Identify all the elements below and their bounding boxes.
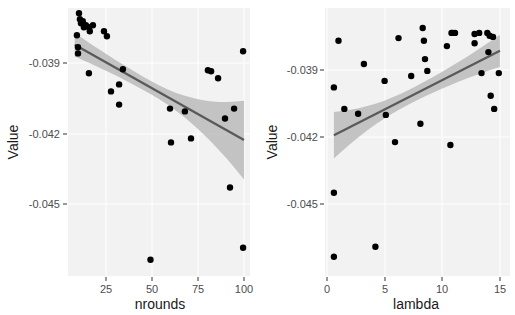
y-tick-label: -0.042 [287,131,318,143]
data-point [331,190,337,196]
data-point [444,43,450,49]
y-tick-label: -0.042 [29,128,60,140]
x-tick-label: 5 [382,283,388,295]
y-tick-label: -0.039 [287,64,318,76]
y-tick-label: -0.039 [29,57,60,69]
y-tick-label: -0.045 [287,198,318,210]
data-point [485,49,491,55]
data-point [167,105,173,111]
data-point [331,84,337,90]
data-point [227,184,233,190]
data-point [108,88,114,94]
x-axis-title: lambda [393,296,439,312]
data-point [104,33,110,39]
data-point [75,50,81,56]
data-point [408,73,414,79]
data-point [490,34,496,40]
data-point [208,68,214,74]
data-point [383,112,389,118]
data-point [478,70,484,76]
x-tick-label: 25 [100,283,112,295]
x-tick-label: 50 [146,283,158,295]
data-point [240,245,246,251]
data-point [231,105,237,111]
data-point [447,142,453,148]
data-point [417,121,423,127]
x-axis: 0 5 10 15 lambda [324,277,506,312]
y-axis-title: Value [5,124,21,159]
data-point [90,22,96,28]
x-axis-title: nrounds [135,296,186,312]
data-point [240,48,246,54]
data-point [424,68,430,74]
data-point [496,70,502,76]
data-point [420,25,426,31]
y-axis-title: Value [264,124,280,159]
data-point [81,24,87,30]
data-point [74,32,80,38]
x-tick-label: 0 [324,283,330,295]
x-tick-label: 10 [436,283,448,295]
data-point [76,10,82,16]
chart-figure: -0.039 -0.042 -0.045 Value 25 50 75 100 … [0,0,515,315]
data-point [491,106,497,112]
y-axis: -0.039 -0.042 -0.045 Value [264,64,324,210]
data-point [168,139,174,145]
data-point [335,38,341,44]
data-point [361,61,367,67]
y-axis: -0.039 -0.042 -0.045 Value [5,57,67,210]
data-point [116,101,122,107]
data-point [147,257,153,263]
data-point [372,244,378,250]
data-point [355,111,361,117]
data-point [182,108,188,114]
data-point [75,44,81,50]
data-point [86,70,92,76]
data-point [395,35,401,41]
data-point [116,81,122,87]
y-tick-label: -0.045 [29,198,60,210]
data-point [188,135,194,141]
data-point [392,139,398,145]
data-point [120,66,126,72]
data-point [87,28,93,34]
data-point [488,93,494,99]
data-point [222,115,228,121]
data-point [476,30,482,36]
x-tick-label: 75 [192,283,204,295]
x-tick-label: 15 [494,283,506,295]
data-point [422,56,428,62]
data-point [471,40,477,46]
panel-lambda: -0.039 -0.042 -0.045 Value 0 5 10 15 lam… [264,8,510,312]
x-tick-label: 100 [235,283,253,295]
data-point [341,106,347,112]
data-point [452,30,458,36]
panel-nrounds: -0.039 -0.042 -0.045 Value 25 50 75 100 … [5,8,253,312]
data-point [381,78,387,84]
data-point [421,38,427,44]
x-axis: 25 50 75 100 nrounds [100,277,253,312]
data-point [215,75,221,81]
data-point [331,254,337,260]
